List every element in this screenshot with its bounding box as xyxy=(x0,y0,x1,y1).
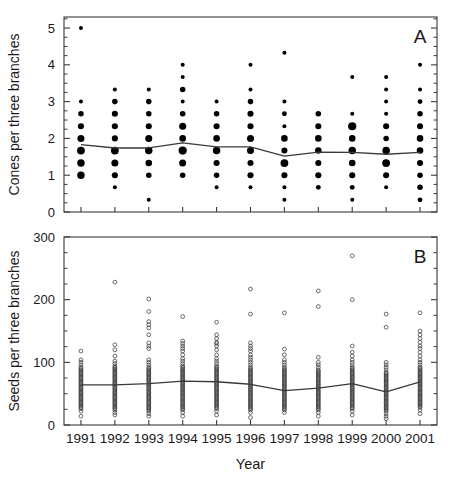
panel-b-datapoint xyxy=(418,350,422,354)
panel-a-yticklabel: 0 xyxy=(48,205,55,220)
panel-a-datapoint xyxy=(146,111,152,117)
panel-a-datapoint xyxy=(315,123,321,129)
panel-a-datapoint xyxy=(248,99,254,105)
panel-a-datapoint xyxy=(181,100,185,104)
panel-b-xticklabel: 1997 xyxy=(269,431,299,446)
panel-b-xticklabel: 1996 xyxy=(235,431,265,446)
panel-a-datapoint xyxy=(213,147,220,154)
panel-b-datapoint xyxy=(113,354,117,358)
panel-a-datapoint xyxy=(249,87,253,91)
panel-a-ylabel: Cones per three branches xyxy=(6,34,22,196)
panel-a-datapoint xyxy=(417,185,423,191)
panel-a-datapoint xyxy=(113,87,117,91)
panel-b-xticklabel: 1993 xyxy=(134,431,164,446)
panel-b-datapoint xyxy=(418,354,422,358)
panel-b-datapoint xyxy=(350,254,354,258)
panel-b-datapoint xyxy=(79,414,83,418)
panel-b-xticklabel: 2000 xyxy=(371,431,401,446)
panel-b-datapoint xyxy=(147,310,151,314)
panel-b-datapoint xyxy=(181,349,185,353)
panel-a-datapoint xyxy=(146,172,152,178)
panel-a-datapoint xyxy=(281,135,288,142)
panel-b: 0100200300199119921993199419951996199719… xyxy=(6,230,437,473)
panel-a-datapoint xyxy=(349,172,355,178)
panel-a-datapoint xyxy=(384,185,388,189)
panel-b-ylabel: Seeds per three branches xyxy=(6,250,22,411)
panel-a-datapoint xyxy=(179,123,186,130)
panel-a-yticklabel: 3 xyxy=(48,94,55,109)
panel-a-datapoint xyxy=(350,112,354,116)
panel-b-datapoint xyxy=(418,347,422,351)
panel-b-datapoint xyxy=(181,414,185,418)
panel-a-yticklabel: 1 xyxy=(48,168,55,183)
panel-a-datapoint xyxy=(350,185,355,190)
panel-a-datapoint xyxy=(145,160,152,167)
panel-a-datapoint xyxy=(417,135,424,142)
panel-b-datapoint xyxy=(215,320,219,324)
panel-a-datapoint xyxy=(77,159,84,166)
panel-b-xticklabel: 1994 xyxy=(168,431,199,446)
panel-a-datapoint xyxy=(215,100,219,104)
panel-b-datapoint xyxy=(418,329,422,333)
panel-a-datapoint xyxy=(214,123,220,129)
panel-a-datapoint xyxy=(282,51,286,55)
panel-a-datapoint xyxy=(181,63,185,67)
panel-b-datapoint xyxy=(350,298,354,302)
panel-b-datapoint xyxy=(249,312,253,316)
panel-a-datapoint xyxy=(112,111,118,117)
panel-b-datapoint xyxy=(113,348,117,352)
panel-a-datapoint xyxy=(384,100,388,104)
panel-b-datapoint xyxy=(113,343,117,347)
panel-b-datapoint xyxy=(316,411,320,415)
panel-b-datapoint xyxy=(418,408,422,412)
panel-b-datapoint xyxy=(384,312,388,316)
panel-b-datapoint xyxy=(350,354,354,358)
panel-a-datapoint xyxy=(418,63,422,67)
panel-a-datapoint xyxy=(247,160,253,166)
panel-b-datapoint xyxy=(215,409,219,413)
panel-a-datapoint xyxy=(282,124,286,128)
panel-a-yticklabel: 5 xyxy=(48,21,55,36)
panel-b-datapoint xyxy=(79,349,83,353)
panel-a-datapoint xyxy=(180,172,186,178)
panel-b-label: B xyxy=(414,246,427,267)
panel-a-datapoint xyxy=(77,171,84,178)
panel-a-datapoint xyxy=(247,172,253,178)
panel-a-datapoint xyxy=(281,148,287,154)
panel-a-datapoint xyxy=(418,87,422,91)
panel-b-datapoint xyxy=(215,353,219,357)
panel-a-datapoint xyxy=(418,99,423,104)
panel-a-datapoint xyxy=(112,172,118,178)
panel-b-datapoint xyxy=(283,353,287,357)
panel-b-datapoint xyxy=(283,347,287,351)
panel-a-yticklabel: 4 xyxy=(48,57,55,72)
panel-b-datapoint xyxy=(350,344,354,348)
panel-a-datapoint xyxy=(214,160,220,166)
panel-b-datapoint xyxy=(147,297,151,301)
panel-a-datapoint xyxy=(180,87,186,93)
panel-a-datapoint xyxy=(417,111,423,117)
panel-a-datapoint xyxy=(179,146,187,154)
panel-a-datapoint xyxy=(282,111,287,116)
figure-svg: 012345ACones per three branches010020030… xyxy=(0,0,453,477)
panel-a-datapoint xyxy=(350,198,354,202)
panel-a-datapoint xyxy=(214,111,220,117)
panel-b-xticklabel: 1999 xyxy=(337,431,367,446)
panel-a-datapoint xyxy=(384,75,388,79)
panel-a-datapoint xyxy=(214,172,220,178)
panel-b-yticklabel: 200 xyxy=(33,292,55,307)
panel-b-datapoint xyxy=(418,340,422,344)
panel-b-yticklabel: 100 xyxy=(33,355,55,370)
panel-b-datapoint xyxy=(215,413,219,417)
panel-a-datapoint xyxy=(215,185,219,189)
panel-a-datapoint xyxy=(348,122,356,130)
panel-b-datapoint xyxy=(249,411,253,415)
panel-a-datapoint xyxy=(316,185,321,190)
panel-b-datapoint xyxy=(249,416,253,420)
panel-a-datapoint xyxy=(113,185,117,189)
panel-b-datapoint xyxy=(181,353,185,357)
panel-a-datapoint xyxy=(282,100,286,104)
panel-b-xticklabel: 1998 xyxy=(303,431,333,446)
panel-b-datapoint xyxy=(113,280,117,284)
panel-a-datapoint xyxy=(417,172,423,178)
